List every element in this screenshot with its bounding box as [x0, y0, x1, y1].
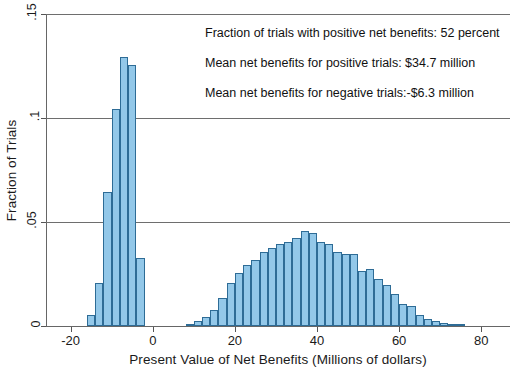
histogram-bar [358, 271, 366, 326]
histogram-bar [284, 242, 292, 326]
annotation-block: Fraction of trials with positive net ben… [205, 18, 515, 108]
histogram-bar [251, 260, 259, 326]
histogram-bar [424, 319, 432, 326]
x-tick-mark [71, 327, 72, 332]
histogram-bar [227, 283, 235, 326]
histogram-bar [432, 321, 440, 326]
histogram-bar [333, 252, 341, 326]
x-tick-label: 60 [369, 333, 429, 348]
histogram-bar [325, 244, 333, 326]
histogram-bar [120, 57, 128, 326]
histogram-bar [366, 269, 374, 326]
histogram-bar [243, 265, 251, 326]
y-tick-label-text: .05 [24, 211, 38, 228]
y-tick-label-text: .1 [28, 111, 42, 121]
histogram-bar [112, 109, 120, 326]
histogram-bar [407, 306, 415, 326]
histogram-bar [448, 324, 456, 326]
histogram-bar [268, 248, 276, 326]
y-tick-label-text: .15 [24, 3, 38, 20]
x-tick-label: 20 [205, 333, 265, 348]
y-tick-label: .15 [0, 5, 40, 19]
histogram-bar [350, 254, 358, 326]
histogram-bar [391, 294, 399, 326]
x-tick-label: 0 [123, 333, 183, 348]
x-tick-mark [153, 327, 154, 332]
x-tick-label: -20 [41, 333, 101, 348]
y-tick-label: .1 [0, 109, 40, 123]
y-tick-label: .05 [0, 213, 40, 227]
histogram-bar [457, 324, 465, 326]
histogram-bar [136, 258, 144, 326]
histogram-bar [440, 323, 448, 326]
histogram-bar [128, 65, 136, 326]
histogram-bar [276, 244, 284, 326]
histogram-bar [317, 242, 325, 326]
histogram-bar [342, 254, 350, 326]
x-tick-label: 80 [451, 333, 511, 348]
y-axis-title: Fraction of Trials [0, 0, 24, 340]
histogram-bar [374, 279, 382, 326]
annotation-line: Mean net benefits for negative trials:-$… [205, 78, 515, 108]
x-axis-title: Present Value of Net Benefits (Millions … [46, 352, 510, 367]
annotation-line: Mean net benefits for positive trials: $… [205, 48, 515, 78]
histogram-bar [383, 285, 391, 326]
x-tick-label: 40 [287, 333, 347, 348]
histogram-bar [260, 252, 268, 326]
histogram-bar [235, 273, 243, 326]
x-tick-mark [235, 327, 236, 332]
histogram-bar [194, 321, 202, 326]
x-axis-line [46, 326, 510, 327]
x-tick-mark [481, 327, 482, 332]
histogram-bar [95, 283, 103, 326]
histogram-bar [186, 324, 194, 326]
annotation-line: Fraction of trials with positive net ben… [205, 18, 515, 48]
histogram-bar [301, 231, 309, 326]
y-axis-title-text: Fraction of Trials [5, 119, 20, 221]
histogram-bar [87, 315, 95, 326]
histogram-bar [210, 310, 218, 326]
histogram-bar [218, 298, 226, 326]
histogram-bar [292, 238, 300, 326]
histogram-bar [416, 315, 424, 326]
y-tick-label: 0 [0, 317, 40, 331]
x-tick-mark [399, 327, 400, 332]
x-tick-mark [317, 327, 318, 332]
histogram-figure: Fraction of Trials 0.05.1.15 -2002040608… [0, 0, 524, 377]
histogram-bar [309, 233, 317, 326]
histogram-bar [202, 317, 210, 326]
histogram-bar [103, 192, 111, 326]
histogram-bar [399, 304, 407, 326]
